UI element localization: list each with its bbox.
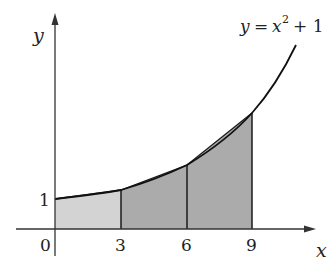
trapezoid-0-3 — [55, 190, 121, 229]
x-axis-arrow-icon — [304, 226, 316, 233]
x-tick-3: 3 — [115, 235, 126, 255]
x-tick-9: 9 — [246, 235, 257, 255]
trapezoid-6-9 — [187, 113, 252, 229]
y-axis-arrow-icon — [52, 13, 59, 25]
function-label: y = x 2 + 1 — [239, 13, 323, 36]
y-axis-label: y — [32, 24, 44, 46]
y-tick-1: 1 — [39, 190, 50, 210]
trapezoid-3-6 — [121, 165, 187, 229]
x-axis-label: x — [316, 239, 327, 261]
x-tick-0: 0 — [40, 235, 51, 255]
x-tick-6: 6 — [181, 235, 192, 255]
trapezoid-diagram: y x 1 0 3 6 9 y = x 2 + 1 — [0, 0, 336, 272]
svg-text:2: 2 — [282, 13, 289, 26]
svg-text:y: y — [239, 16, 250, 36]
svg-text:+ 1: + 1 — [293, 16, 323, 36]
svg-text:=: = — [254, 16, 268, 36]
svg-text:x: x — [272, 16, 282, 36]
